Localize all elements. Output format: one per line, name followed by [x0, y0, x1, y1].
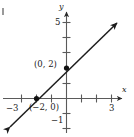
point-marker-x-intercept	[34, 96, 39, 101]
point-label-y-intercept: (0, 2)	[34, 60, 57, 69]
coordinate-plane-figure: y x 5 −1 −3 3 (0, 2) (−2, 0)	[0, 0, 134, 137]
plotted-line-series	[10, 23, 117, 127]
point-marker-y-intercept	[64, 65, 69, 70]
x-axis-label: x	[122, 86, 127, 94]
x-tick-label-3: 3	[109, 104, 114, 113]
line-y-equals-x-plus-2	[10, 23, 117, 127]
graph-canvas	[0, 0, 134, 137]
point-label-x-intercept: (−2, 0)	[29, 103, 59, 112]
x-tick-label-neg3: −3	[6, 104, 19, 113]
y-tick-label-neg1: −1	[51, 116, 64, 125]
y-tick-label-5: 5	[55, 18, 60, 27]
y-axis-label: y	[59, 3, 64, 11]
x-axis	[3, 95, 122, 103]
